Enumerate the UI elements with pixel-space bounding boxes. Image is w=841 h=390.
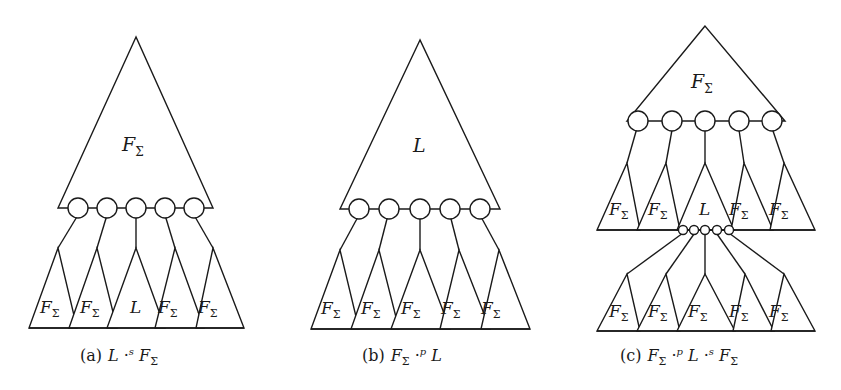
top-triangle: [58, 37, 213, 208]
panel-c-middle-subtrees: FΣ FΣ L FΣ FΣ: [597, 128, 815, 230]
caption-c: (c)FΣ ·p L ·s FΣ: [620, 346, 738, 368]
panel-c: FΣ FΣ FΣ FΣ FΣ FΣ FΣ L FΣ FΣ: [597, 26, 815, 368]
svg-text:L: L: [698, 199, 710, 219]
top-triangle-label: L: [412, 134, 426, 156]
subtree-triangle: [731, 163, 773, 230]
caption-a: (a)L ·s FΣ: [80, 346, 158, 368]
small-junction-nodes: [677, 226, 735, 235]
panel-b: FΣ FΣ FΣ FΣ FΣ L (b)FΣ ·p L: [311, 40, 530, 368]
panel-a: FΣ FΣ L FΣ FΣ FΣ (a)L ·s FΣ: [29, 37, 244, 368]
subtree-triangle: [770, 163, 815, 230]
panel-c-bottom-subtrees: FΣ FΣ FΣ FΣ FΣ: [597, 233, 815, 331]
subtree-triangle: [637, 163, 680, 230]
subtree-triangle: [677, 163, 734, 230]
panel-b-subtrees: FΣ FΣ FΣ FΣ FΣ: [311, 215, 530, 329]
panel-a-subtrees: FΣ FΣ L FΣ FΣ: [29, 215, 244, 328]
subtree-triangle: [597, 163, 640, 230]
tree-composition-figure: FΣ FΣ L FΣ FΣ FΣ (a)L ·s FΣ: [0, 0, 841, 390]
top-triangle: [340, 40, 500, 209]
svg-text:L: L: [129, 297, 141, 317]
top-triangle: [627, 26, 785, 121]
caption-b: (b)FΣ ·p L: [362, 346, 442, 368]
